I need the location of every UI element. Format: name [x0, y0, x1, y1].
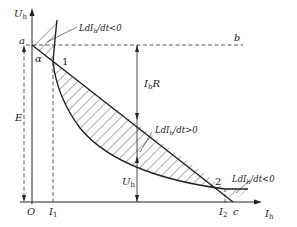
y-axis-label: Uh	[14, 8, 27, 21]
origin-label: O	[27, 206, 35, 217]
tick-I1-label: I1	[48, 206, 57, 219]
annotation-middle: LdIh/dt>0	[154, 125, 198, 136]
IhR-arrow-up-icon	[135, 45, 139, 52]
IhR-arrow-down-icon	[135, 113, 139, 120]
y-axis-arrow-icon	[30, 8, 35, 16]
E-label: E	[14, 112, 23, 123]
annotation-right: LdIh/dt<0	[231, 174, 275, 185]
arc-characteristic-diagram: Uh a b c 1 2 α O I1 I2 Ih E IhR Uh LdIh/…	[0, 0, 297, 227]
Uh-arrow-down-icon	[135, 195, 139, 202]
E-arrow-down-icon	[22, 195, 26, 202]
point-c-label: c	[233, 206, 239, 217]
load-line-ac	[32, 45, 233, 202]
x-axis-arrow-icon	[254, 200, 262, 205]
tick-I2-label: I2	[218, 206, 227, 219]
hatched-region-right	[225, 189, 248, 202]
point-1-label: 1	[62, 56, 68, 67]
x-axis-label: Ih	[264, 208, 274, 221]
angle-alpha-label: α	[35, 53, 42, 64]
IhR-label: IhR	[143, 78, 160, 91]
point-b-label: b	[234, 32, 240, 43]
annotation-top: LdIh/dt<0	[78, 23, 122, 34]
point-a-label: a	[19, 35, 25, 46]
Uh-label: Uh	[122, 176, 135, 189]
E-arrow-up-icon	[22, 45, 26, 52]
point-2-label: 2	[215, 176, 221, 187]
